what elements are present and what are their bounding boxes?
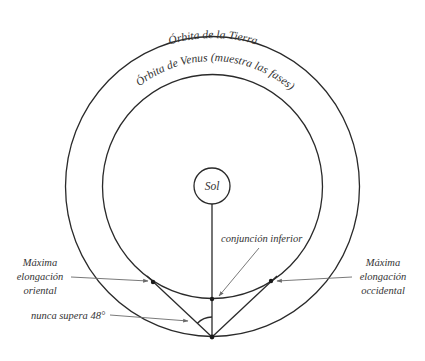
eastern-elongation-label-line3: oriental (23, 285, 56, 296)
eastern-elongation-label-line2: elongación (17, 271, 64, 282)
earth-orbit-label: Órbita de la Tierra (167, 28, 260, 46)
venus-orbit-label-text: Órbita de Venus (muestra las fases) (133, 51, 298, 93)
eastern-elongation-arrow (71, 277, 148, 281)
earth-dot (210, 335, 215, 340)
western-elongation-label-line3: occidental (361, 285, 405, 296)
western-elongation-label-line2: elongación (360, 271, 407, 282)
venus-orbit-label: Órbita de Venus (muestra las fases) (133, 51, 298, 93)
earth-orbit-label-text: Órbita de la Tierra (167, 28, 260, 46)
sun-label: Sol (205, 180, 220, 192)
conjunction-arrow (219, 248, 259, 296)
western-tangent-line (212, 276, 277, 337)
venus-elongation-diagram: Órbita de la Tierra Órbita de Venus (mue… (0, 0, 425, 361)
elongation-angle-arc (197, 317, 212, 323)
eastern-tangent-line (147, 276, 212, 337)
western-elongation-arrow (277, 277, 352, 281)
venus-western-elongation-dot (269, 279, 273, 283)
inferior-conjunction-label: conjunción inferior (221, 233, 303, 244)
venus-eastern-elongation-dot (151, 280, 155, 284)
max-angle-label: nunca supera 48° (31, 310, 106, 321)
max-angle-arrow (110, 315, 188, 321)
eastern-elongation-label-line1: Máxima (22, 257, 57, 268)
venus-inferior-conjunction-dot (210, 297, 214, 301)
western-elongation-label-line1: Máxima (365, 257, 400, 268)
